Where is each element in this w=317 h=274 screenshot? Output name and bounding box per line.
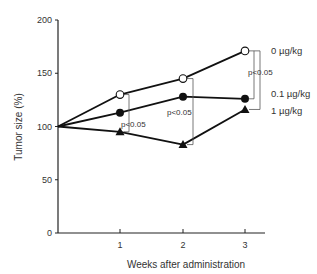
filled-circle-marker (241, 95, 249, 103)
y-tick-label: 150 (37, 68, 52, 78)
open-circle-marker (116, 91, 124, 99)
x-tick-label: 3 (242, 240, 247, 250)
p-value-week-3: p<0.05 (248, 68, 273, 77)
axes (58, 20, 265, 233)
x-tick-label: 1 (117, 240, 122, 250)
filled-circle-marker (179, 93, 187, 101)
series-label: 0.1 µg/kg (271, 88, 310, 99)
x-axis-ticks: 123 (117, 229, 247, 250)
y-axis-ticks: 050100150200 (37, 15, 58, 238)
y-tick-label: 0 (47, 228, 52, 238)
y-tick-label: 50 (42, 175, 52, 185)
open-circle-marker (179, 75, 187, 83)
x-axis-title: Weeks after administration (127, 259, 245, 270)
series-line (58, 51, 245, 127)
triangle-marker (241, 105, 250, 113)
y-tick-label: 200 (37, 15, 52, 25)
series-lines (58, 51, 245, 145)
series-label: 0 µg/kg (271, 45, 302, 56)
series-line (58, 109, 245, 144)
filled-circle-marker (116, 109, 124, 117)
y-tick-label: 100 (37, 122, 52, 132)
p-value-week-2: p<0.05 (167, 108, 192, 117)
series-labels: 0 µg/kg0.1 µg/kg1 µg/kg (271, 45, 310, 117)
tumor-size-chart: 050100150200 123 p<0.05p<0.05p<0.05 0 µg… (0, 0, 317, 274)
p-value-week-1: p<0.05 (121, 120, 146, 129)
x-tick-label: 2 (180, 240, 185, 250)
bracket-week-3-outer (249, 51, 260, 110)
open-circle-marker (241, 47, 249, 55)
series-label: 1 µg/kg (271, 105, 302, 116)
y-axis-title: Tumor size (%) (13, 93, 24, 160)
